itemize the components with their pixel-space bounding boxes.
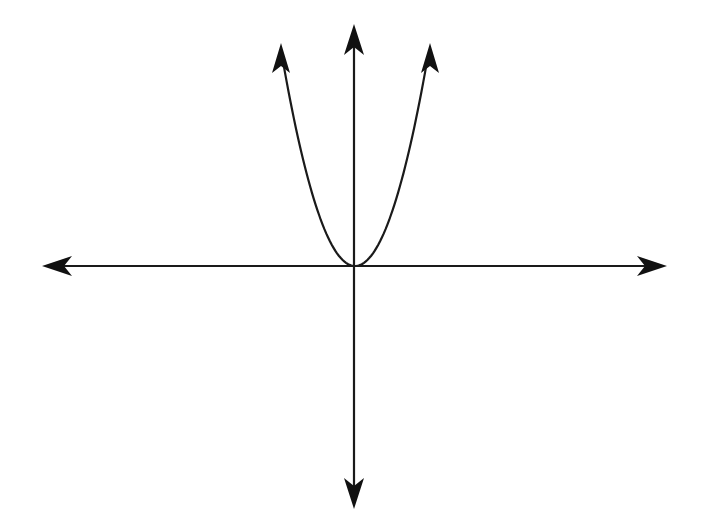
graph-canvas	[0, 0, 702, 531]
parabola-right-arrow-icon	[421, 43, 439, 73]
parabola-curve	[272, 43, 439, 266]
parabola-left-arrow-icon	[272, 43, 290, 73]
